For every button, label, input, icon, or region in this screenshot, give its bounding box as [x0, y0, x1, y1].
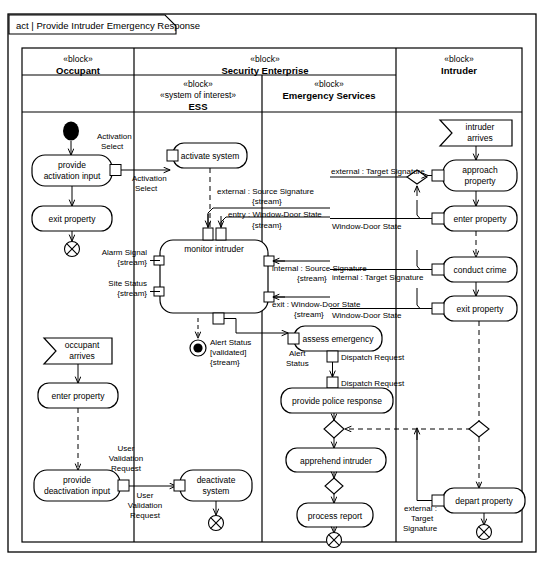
pin-dispatch-request-in[interactable]: [327, 377, 338, 388]
action-provide-police-response-label: provide police response: [292, 396, 382, 406]
pin-dispatch-request-out[interactable]: [327, 351, 338, 362]
pin-entry-window-door-state[interactable]: [216, 228, 226, 240]
partition-emergency-stereotype: «block»: [314, 79, 344, 89]
action-deactivate-system-line1: deactivate: [197, 475, 236, 485]
partition-security-stereotype: «block»: [250, 54, 280, 64]
pin-external-target-signature-top-label: external : Target Signature: [331, 167, 425, 176]
pin-alert-status-in-line2: Status: [286, 359, 309, 368]
pin-user-validation-request-out[interactable]: [118, 480, 129, 491]
action-assess-emergency-label: assess emergency: [303, 334, 375, 344]
pin-activation-select-out[interactable]: [110, 165, 121, 176]
pin-deactivate-system-in[interactable]: [174, 480, 185, 491]
pin-site-status-line1: Site Status: [108, 279, 147, 288]
alert-status-node: [190, 340, 206, 356]
pin-external-target-signature-bottom-line2: Target: [411, 514, 434, 523]
partition-occupant-stereotype: «block»: [63, 54, 93, 64]
pin-activation-select-in-line2: Select: [135, 184, 158, 193]
partition-intruder-name: Intruder: [441, 65, 477, 76]
pin-alarm-signal-line2: {stream}: [117, 258, 147, 267]
pin-exit-window-door-state-line1: exit : Window-Door State: [272, 300, 361, 309]
pin-external-source-signature-line2: {stream}: [252, 197, 282, 206]
pin-entry-window-door-state-line2: {stream}: [252, 221, 282, 230]
initial-node-occupant: [63, 122, 79, 141]
action-exit-property-intruder-label: exit property: [457, 304, 505, 314]
pin-approach-property-out[interactable]: [432, 170, 444, 181]
action-conduct-crime-label: conduct crime: [454, 265, 507, 275]
pin-user-validation-request-out-line1: User: [118, 444, 135, 453]
action-provide-activation-input-line2: activation input: [44, 171, 101, 181]
pin-user-validation-request-in-line3: Request: [130, 511, 161, 520]
action-exit-property-occupant-label: exit property: [49, 214, 97, 224]
flow-final-node-ess: [209, 516, 224, 531]
pin-user-validation-request-out-line3: Request: [111, 464, 142, 473]
flow-final-node-intruder: [477, 525, 492, 540]
pin-window-door-state-enter-label: Window-Door State: [332, 222, 402, 231]
partition-ess-name: ESS: [188, 101, 207, 112]
frame-label: act | Provide Intruder Emergency Respons…: [16, 20, 200, 31]
action-process-report-label: process report: [308, 511, 363, 521]
partition-ess-stereotype: «block»: [183, 79, 213, 89]
pin-activation-select-in-line1: Activation: [132, 174, 167, 183]
action-deactivate-system-line2: system: [203, 486, 230, 496]
pin-activation-select-out-line1: Activation: [97, 132, 132, 141]
sysml-activity-diagram: act | Provide Intruder Emergency Respons…: [0, 0, 546, 562]
pin-alert-status-validated-line3: {stream}: [210, 358, 240, 367]
partition-intruder-stereotype: «block»: [444, 54, 474, 64]
accept-event-occupant-arrives-line1: occupant: [65, 340, 100, 350]
action-enter-property-occupant-label: enter property: [52, 391, 106, 401]
pin-external-target-signature-bottom-line3: Signature: [403, 524, 438, 533]
pin-exit-window-door-state-line2: {stream}: [294, 310, 324, 319]
pin-alert-status-validated-line1: Alert Status: [210, 338, 251, 347]
pin-site-status-line2: {stream}: [117, 289, 147, 298]
partition-security-name: Security Enterprise: [221, 65, 308, 76]
accept-event-intruder-arrives-line1: intruder: [466, 122, 495, 132]
pin-alert-status-in-line1: Alert: [289, 349, 306, 358]
activity-diagram-canvas: act | Provide Intruder Emergency Respons…: [0, 0, 546, 562]
action-provide-deactivation-input-line1: provide: [63, 475, 91, 485]
pin-alarm-signal-line1: Alarm Signal: [102, 248, 148, 257]
action-apprehend-intruder-label: apprehend intruder: [300, 456, 372, 466]
pin-dispatch-request-out-label: Dispatch Request: [341, 353, 405, 362]
action-provide-deactivation-input-line2: deactivation input: [44, 486, 111, 496]
pin-external-target-signature-bottom-line1: external :: [404, 504, 437, 513]
pin-dispatch-request-in-label: Dispatch Request: [341, 379, 405, 388]
flow-final-node-occupant: [65, 242, 80, 257]
accept-event-intruder-arrives-line2: arrives: [467, 133, 493, 143]
partition-emergency-name: Emergency Services: [283, 90, 376, 101]
pin-external-source-signature-line1: external : Source Signature: [217, 187, 314, 196]
pin-internal-target-signature-label: internal : Target Signature: [332, 273, 424, 282]
pin-activation-select-out-line2: Select: [101, 142, 124, 151]
accept-event-occupant-arrives-line2: arrives: [69, 351, 95, 361]
pin-conduct-crime-out[interactable]: [432, 264, 444, 275]
pin-window-door-state-exit-label: Window-Door State: [332, 311, 402, 320]
pin-internal-source-signature-line2: {stream}: [297, 274, 327, 283]
pin-user-validation-request-in-line1: User: [137, 491, 154, 500]
pin-entry-window-door-state-line1: entry : Window-Door State: [228, 210, 322, 219]
action-activate-system-label: activate system: [181, 151, 240, 161]
pin-user-validation-request-out-line2: Validation: [109, 454, 144, 463]
pin-alert-status-out[interactable]: [213, 313, 224, 324]
action-depart-property-label: depart property: [455, 496, 513, 506]
action-provide-activation-input-line1: provide: [58, 160, 86, 170]
pin-exit-property-out[interactable]: [432, 303, 444, 314]
flow-final-node-emergency: [327, 533, 342, 548]
action-enter-property-intruder-label: enter property: [454, 214, 508, 224]
partition-occupant-name: Occupant: [56, 65, 101, 76]
action-monitor-intruder-label: monitor intruder: [184, 244, 244, 254]
pin-alert-status-in[interactable]: [288, 333, 299, 344]
pin-alert-status-validated-line2: [validated]: [210, 348, 246, 357]
pin-external-source-signature[interactable]: [203, 228, 213, 240]
action-approach-property-line2: property: [464, 176, 496, 186]
pin-enter-property-out[interactable]: [432, 213, 444, 224]
partition-ess-stereotype2: «system of interest»: [160, 90, 236, 100]
pin-activate-system-in[interactable]: [167, 150, 178, 161]
pin-internal-source-signature-line1: internal : Source Signature: [272, 264, 367, 273]
pin-user-validation-request-in-line2: Validation: [128, 501, 163, 510]
action-approach-property-line1: approach: [462, 165, 498, 175]
